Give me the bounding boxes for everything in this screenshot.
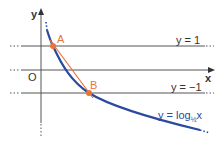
point-b-label: B [90,80,97,91]
line-y-minus-1-label: y = −1 [171,82,202,93]
curve-label-suffix: x [197,109,203,121]
x-axis-label: x [205,73,211,84]
curve-label-prefix: y = log [158,109,191,121]
curve-label: y = log½x [158,110,202,121]
y-axis-arrow-icon [38,8,44,15]
point-a [50,43,56,49]
curve-label-base: ½ [191,116,197,123]
y-axis [38,8,44,137]
y-axis-label: y [31,9,37,20]
line-y-1-label: y = 1 [176,35,200,46]
point-a-label: A [57,34,64,45]
segment-ab [50,40,93,98]
origin-label: O [28,72,37,83]
